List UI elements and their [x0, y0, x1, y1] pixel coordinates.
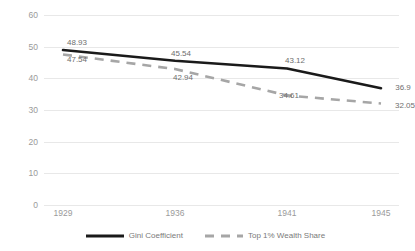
data-label-0-1: 45.54 — [171, 50, 191, 58]
legend-swatch-solid-icon — [86, 232, 124, 240]
data-label-1-2: 34.61 — [279, 92, 299, 100]
data-label-1-0: 47.54 — [67, 56, 87, 64]
chart-title-cropped — [0, 0, 411, 7]
y-tick-60: 60 — [8, 11, 38, 20]
y-tick-10: 10 — [8, 169, 38, 178]
data-label-0-3: 36.9 — [395, 84, 411, 92]
y-tick-40: 40 — [8, 74, 38, 83]
x-tick-1929: 1929 — [54, 208, 73, 218]
data-label-0-2: 43.12 — [285, 57, 305, 65]
x-tick-1941: 1941 — [278, 208, 297, 218]
x-axis: 1929 1936 1941 1945 — [44, 208, 399, 222]
plot-area: 48.9345.5443.1236.947.5442.9434.6132.05 — [44, 15, 399, 205]
chart-legend: Gini Coefficient Top 1% Wealth Share — [0, 228, 411, 244]
data-label-1-1: 42.94 — [173, 74, 193, 82]
legend-swatch-dashed-icon — [205, 232, 243, 240]
y-tick-0: 0 — [8, 201, 38, 210]
data-label-1-3: 32.05 — [395, 102, 415, 110]
y-axis: 60 50 40 30 20 10 0 — [0, 15, 38, 205]
y-tick-30: 30 — [8, 106, 38, 115]
y-tick-50: 50 — [8, 43, 38, 52]
legend-item-gini-coefficient[interactable]: Gini Coefficient — [86, 232, 183, 240]
x-tick-1945: 1945 — [372, 208, 391, 218]
x-tick-1936: 1936 — [166, 208, 185, 218]
data-label-0-0: 48.93 — [67, 39, 87, 47]
legend-label-gini-coefficient: Gini Coefficient — [129, 232, 183, 240]
y-tick-20: 20 — [8, 138, 38, 147]
legend-label-top-1-percent-wealth-share: Top 1% Wealth Share — [248, 232, 325, 240]
legend-item-top-1-percent-wealth-share[interactable]: Top 1% Wealth Share — [205, 232, 325, 240]
series-lines — [44, 15, 399, 205]
gini-coefficient-line — [63, 50, 381, 88]
gridline-0 — [44, 205, 399, 206]
